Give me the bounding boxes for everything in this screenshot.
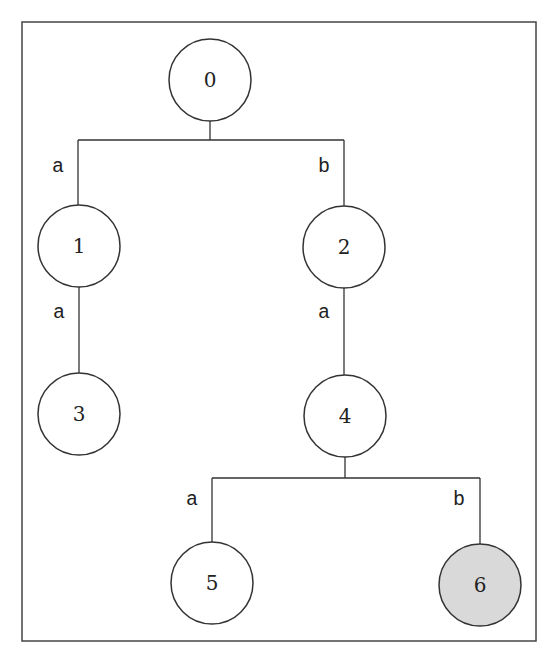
node-label: 4: [339, 404, 352, 428]
edge-label-0-1: a: [52, 155, 64, 178]
node-label: 5: [206, 571, 219, 595]
node-label: 6: [474, 573, 487, 597]
node-1: 1: [38, 205, 120, 287]
diagram-frame: [22, 22, 536, 641]
edge-4-branch: [212, 457, 480, 544]
node-label: 2: [338, 235, 351, 259]
node-0: 0: [169, 39, 251, 121]
node-6-highlighted: 6: [439, 544, 521, 626]
node-4: 4: [304, 375, 386, 457]
edge-label-4-6: b: [453, 488, 465, 511]
edge-label-2-4: a: [318, 301, 330, 324]
trie-diagram: a b a a a b 0 1 2 3 4 5 6: [0, 0, 556, 658]
node-label: 0: [204, 68, 217, 92]
node-5: 5: [171, 542, 253, 624]
edge-0-branch: [78, 121, 344, 206]
edges: [78, 121, 480, 544]
node-3: 3: [38, 373, 120, 455]
edge-label-0-2: b: [318, 155, 330, 178]
node-label: 1: [73, 234, 86, 258]
edge-label-1-3: a: [53, 301, 65, 324]
node-label: 3: [73, 402, 86, 426]
node-2: 2: [303, 206, 385, 288]
edge-label-4-5: a: [186, 488, 198, 511]
